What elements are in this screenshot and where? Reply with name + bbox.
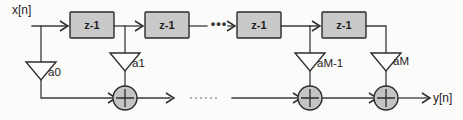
diagram-canvas: z-1 z-1 ••• z-1 z-1 a0 a1: [0, 0, 463, 120]
delay-block-1-label: z-1: [84, 19, 99, 31]
wire-a0-to-adder1: [41, 80, 112, 98]
delay-block-4-label: z-1: [336, 19, 351, 31]
delay-block-2-label: z-1: [159, 19, 174, 31]
delay-block-3-label: z-1: [251, 19, 266, 31]
gain-label-aM-1: aM-1: [317, 57, 343, 69]
gain-label-a1: a1: [132, 57, 145, 69]
gain-label-a0: a0: [48, 66, 61, 78]
wire-delay4-to-aM: [366, 26, 386, 53]
top-ellipsis: •••: [211, 16, 228, 31]
output-signal-label: y[n]: [433, 91, 452, 105]
gain-label-aM: aM: [393, 55, 409, 67]
fir-filter-diagram: z-1 z-1 ••• z-1 z-1 a0 a1: [0, 0, 463, 120]
input-signal-label: x[n]: [12, 3, 31, 17]
